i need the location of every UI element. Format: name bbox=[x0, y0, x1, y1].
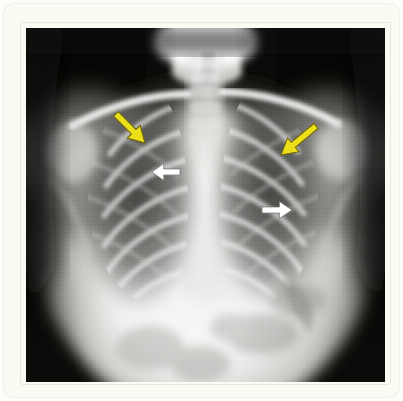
radiograph-figure: X-ray AP chest bbox=[0, 0, 403, 401]
photo-mount bbox=[4, 4, 399, 397]
edge-fade-top bbox=[26, 28, 385, 54]
xray-canvas bbox=[26, 28, 385, 382]
right-humeral-head bbox=[46, 122, 98, 182]
film-content bbox=[26, 28, 385, 382]
chest-xray-image bbox=[26, 28, 385, 382]
